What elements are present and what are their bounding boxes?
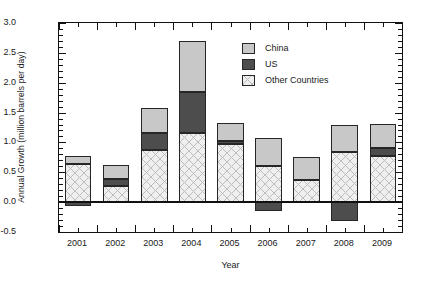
bar-segment-other-countries[interactable] (331, 152, 358, 202)
y-tick (59, 232, 66, 233)
y-tick-right (398, 89, 402, 90)
y-tick-right (398, 196, 402, 197)
legend-label-china: China (265, 43, 289, 53)
bar-segment-other-countries[interactable] (293, 180, 320, 202)
legend-label-other-countries: Other Countries (265, 75, 329, 85)
y-tick-right (398, 77, 402, 78)
y-tick-right (398, 95, 402, 96)
y-tick-label: 2.0 (0, 77, 16, 86)
y-tick-label: 3.0 (0, 18, 16, 27)
y-tick (59, 107, 63, 108)
y-tick (59, 47, 63, 48)
y-tick (59, 95, 63, 96)
y-tick-right (395, 232, 402, 233)
y-tick-right (398, 41, 402, 42)
y-tick-right (398, 148, 402, 149)
bar-segment-china[interactable] (103, 165, 130, 180)
legend-item-china: China (242, 40, 329, 56)
y-tick-label: 1.0 (0, 137, 16, 146)
y-tick-right (398, 136, 402, 137)
bar-segment-china[interactable] (331, 125, 358, 152)
y-tick (59, 89, 63, 90)
bar-segment-other-countries[interactable] (103, 186, 130, 202)
y-tick (59, 208, 63, 209)
y-tick-right (398, 178, 402, 179)
x-tick-top (59, 23, 60, 30)
x-axis-label: Year (58, 260, 403, 270)
bar-segment-other-countries[interactable] (370, 156, 397, 202)
y-tick (59, 130, 63, 131)
legend-item-us: US (242, 56, 329, 72)
bar-segment-other-countries[interactable] (255, 166, 282, 202)
bar-segment-us[interactable] (179, 92, 206, 134)
legend-item-other-countries: Other Countries (242, 72, 329, 88)
y-tick (59, 220, 63, 221)
legend-swatch-other-countries (242, 75, 255, 86)
bar-segment-us[interactable] (103, 179, 130, 186)
bar-segment-other-countries[interactable] (65, 164, 92, 202)
x-tick (59, 225, 60, 232)
zero-baseline (59, 201, 402, 202)
y-tick-right (398, 65, 402, 66)
y-tick (59, 214, 63, 215)
plot-area (58, 22, 403, 233)
y-tick (59, 41, 63, 42)
bar-segment-other-countries[interactable] (141, 150, 168, 203)
y-tick-right (398, 160, 402, 161)
bar-segment-other-countries[interactable] (179, 133, 206, 202)
bar-segment-us[interactable] (217, 141, 244, 144)
y-tick (59, 119, 63, 120)
y-tick-right (398, 220, 402, 221)
y-tick-right (398, 190, 402, 191)
y-tick-right (398, 47, 402, 48)
x-tick (173, 225, 174, 232)
x-tick-top (173, 23, 174, 30)
y-tick-right (398, 71, 402, 72)
y-tick (59, 71, 63, 72)
y-tick-right (398, 130, 402, 131)
y-tick-right (398, 208, 402, 209)
bar-segment-china[interactable] (217, 123, 244, 140)
bar-segment-us[interactable] (141, 133, 168, 149)
x-tick-top (364, 23, 365, 30)
x-tick (288, 225, 289, 232)
bar-segment-us[interactable] (370, 148, 397, 156)
x-tick-top (250, 23, 251, 30)
y-tick (59, 77, 63, 78)
y-tick (59, 148, 63, 149)
x-tick (250, 225, 251, 232)
y-tick-right (398, 35, 402, 36)
x-tick (211, 225, 212, 232)
y-tick (59, 166, 63, 167)
y-tick (59, 196, 63, 197)
y-tick (59, 184, 63, 185)
bar-segment-china[interactable] (293, 157, 320, 180)
y-tick-label: 1.5 (0, 107, 16, 116)
y-tick-label: 2.5 (0, 47, 16, 56)
bar-segment-other-countries[interactable] (217, 144, 244, 203)
y-tick (59, 136, 63, 137)
y-tick-right (398, 214, 402, 215)
x-tick (402, 225, 403, 232)
bar-segment-us[interactable] (255, 202, 282, 210)
bar-segment-china[interactable] (141, 108, 168, 134)
y-tick (59, 160, 63, 161)
bar-segment-china[interactable] (370, 124, 397, 148)
y-tick (59, 59, 63, 60)
bar-segment-china[interactable] (179, 41, 206, 92)
bar-segment-china[interactable] (255, 138, 282, 167)
legend-swatch-us (242, 59, 255, 70)
chart-figure: Annual Growth (million barrels per day) … (0, 0, 425, 285)
x-tick-top (97, 23, 98, 30)
y-tick (59, 65, 63, 66)
y-tick-right (398, 101, 402, 102)
bar-segment-china[interactable] (65, 156, 92, 164)
y-tick-right (398, 166, 402, 167)
bar-segment-us[interactable] (331, 202, 358, 221)
y-tick (59, 190, 63, 191)
y-tick (59, 125, 63, 126)
y-tick-right (398, 154, 402, 155)
x-tick-top (288, 23, 289, 30)
y-tick (59, 101, 63, 102)
x-tick-top (402, 23, 403, 30)
